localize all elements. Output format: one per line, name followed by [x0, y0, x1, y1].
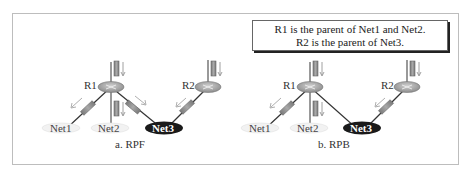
packet-icon — [211, 61, 222, 76]
caption-rpf: a. RPF — [115, 139, 145, 150]
router-label-r1: R1 — [84, 80, 97, 91]
router-label-r1: R1 — [283, 80, 296, 91]
router-icon — [195, 82, 221, 93]
note-line-2: R2 is the parent of Net3. — [253, 36, 447, 49]
packet-icon — [279, 101, 294, 116]
packet-icon — [80, 101, 95, 116]
net-label-net3: Net3 — [350, 123, 372, 134]
net-label-net2: Net2 — [98, 123, 119, 134]
caption-rpb: b. RPB — [318, 139, 350, 150]
arrow-icon — [71, 98, 82, 108]
router-icon — [297, 82, 323, 93]
packet-icon — [125, 100, 140, 114]
packet-icon — [313, 101, 324, 116]
router-label-r2: R2 — [182, 80, 195, 91]
net-label-net1: Net1 — [50, 123, 71, 134]
net-label-net2: Net2 — [297, 123, 318, 134]
arrow-icon — [270, 98, 281, 108]
packet-icon — [114, 61, 125, 76]
router-icon — [98, 82, 124, 93]
router-label-r2: R2 — [381, 80, 394, 91]
note-line-1: R1 is the parent of Net1 and Net2. — [253, 23, 447, 36]
arrow-icon — [135, 96, 146, 105]
packet-icon — [313, 61, 324, 76]
parent-note-box: R1 is the parent of Net1 and Net2. R2 is… — [252, 20, 448, 51]
router-icon — [394, 82, 420, 93]
net-label-net1: Net1 — [249, 123, 270, 134]
packet-icon — [114, 101, 125, 116]
packet-icon — [410, 61, 421, 76]
net-label-net3: Net3 — [152, 123, 174, 134]
